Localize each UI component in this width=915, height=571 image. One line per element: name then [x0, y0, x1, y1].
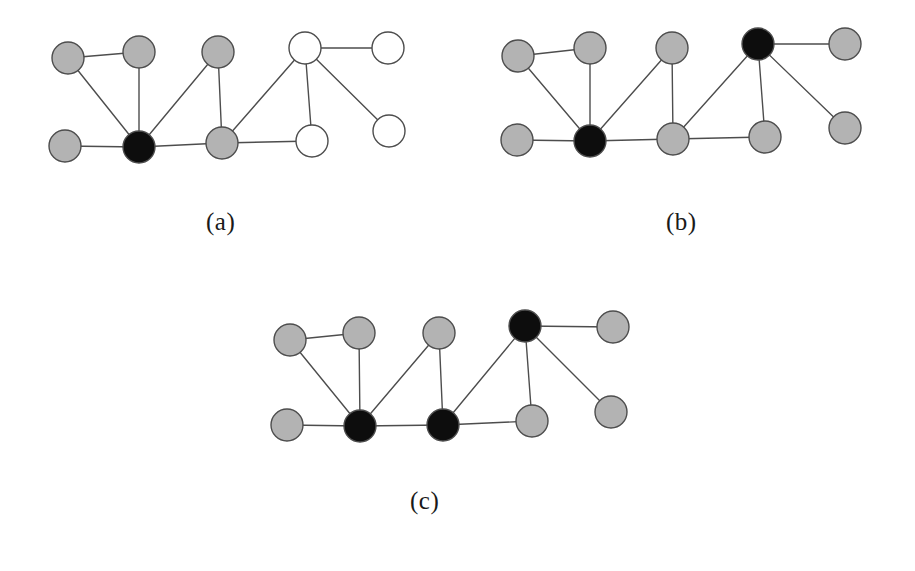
graph-node-black — [509, 310, 541, 342]
graph-node-black — [427, 409, 459, 441]
graph-edge — [443, 326, 525, 425]
graph-node-gray — [271, 409, 303, 441]
graph-node-black — [574, 125, 606, 157]
graph-node-gray — [123, 36, 155, 68]
graph-edge — [360, 333, 439, 426]
graph-node-gray — [274, 324, 306, 356]
graph-edge — [590, 48, 672, 141]
graph-panel-c — [271, 310, 629, 442]
graph-node-white — [289, 32, 321, 64]
graph-node-gray — [749, 121, 781, 153]
graph-figure-canvas — [0, 0, 915, 571]
graph-edge — [68, 58, 139, 147]
panel-caption-a: (a) — [206, 208, 235, 236]
graph-node-black — [123, 131, 155, 163]
panel-caption-b: (b) — [666, 208, 697, 236]
graph-edge — [139, 52, 218, 147]
graph-edge — [525, 326, 611, 412]
graph-node-gray — [49, 130, 81, 162]
graph-node-gray — [574, 32, 606, 64]
graph-node-gray — [657, 123, 689, 155]
graph-node-gray — [829, 112, 861, 144]
graph-edge — [305, 48, 389, 131]
graph-edge — [673, 44, 758, 139]
graph-node-gray — [656, 32, 688, 64]
node-layer-a — [49, 32, 405, 163]
graph-edge — [222, 48, 305, 143]
graph-node-gray — [516, 405, 548, 437]
panel-caption-c: (c) — [410, 487, 439, 515]
graph-node-black — [742, 28, 774, 60]
graph-panel-b — [501, 28, 861, 157]
graph-node-gray — [597, 311, 629, 343]
graph-node-gray — [343, 317, 375, 349]
graph-node-gray — [423, 317, 455, 349]
graph-node-gray — [501, 124, 533, 156]
graph-edge — [758, 44, 845, 128]
graph-node-black — [344, 410, 376, 442]
graph-panel-a — [49, 32, 405, 163]
node-layer-b — [501, 28, 861, 157]
graph-node-gray — [502, 40, 534, 72]
figure-root: (a) (b) (c) — [0, 0, 915, 571]
graph-node-white — [372, 32, 404, 64]
graph-node-white — [373, 115, 405, 147]
graph-node-gray — [206, 127, 238, 159]
graph-node-white — [296, 125, 328, 157]
graph-node-gray — [202, 36, 234, 68]
graph-node-gray — [595, 396, 627, 428]
graph-node-gray — [52, 42, 84, 74]
graph-node-gray — [829, 28, 861, 60]
